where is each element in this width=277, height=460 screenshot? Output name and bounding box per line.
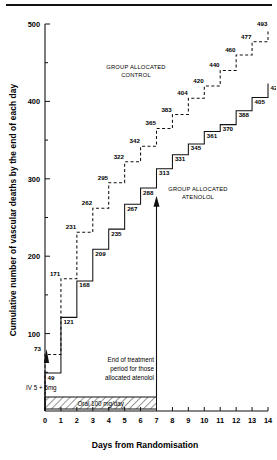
data-label-atenolol: 209 (95, 250, 105, 257)
x-tick-label: 4 (102, 416, 116, 425)
data-label-atenolol: 235 (111, 230, 121, 237)
y-tick-label: 400 (18, 97, 40, 106)
data-label-atenolol: 267 (127, 205, 137, 212)
x-tick-label: 2 (70, 416, 84, 425)
data-label-atenolol: 331 (175, 155, 185, 162)
data-label-atenolol: 405 (255, 98, 265, 105)
data-label-control: 440 (209, 61, 219, 68)
data-label-atenolol: 388 (239, 111, 249, 118)
x-tick-label: 9 (181, 416, 195, 425)
data-label-atenolol: 121 (63, 318, 73, 325)
data-label-control: 420 (193, 77, 203, 84)
group-label-control-line1: GROUP ALLOCATED (88, 64, 184, 72)
y-tick-label: 200 (18, 252, 40, 261)
iv-dose-label: IV 5 + 5mg (26, 384, 57, 391)
x-tick-label: 11 (213, 416, 227, 425)
data-label-atenolol: 168 (79, 281, 89, 288)
data-label-control: 171 (50, 270, 60, 277)
data-label-control: 295 (98, 174, 108, 181)
end-treatment-annotation-line2: period for those (96, 364, 154, 373)
data-label-control: 322 (114, 153, 124, 160)
data-label-control: 404 (177, 89, 187, 96)
x-tick-label: 10 (197, 416, 211, 425)
data-label-control: 365 (146, 119, 156, 126)
figure-container: Cumulative number of vascular deaths by … (0, 0, 276, 460)
x-tick-label: 0 (38, 416, 52, 425)
x-tick-label: 12 (229, 416, 243, 425)
data-label-control: 231 (66, 223, 76, 230)
x-tick-label: 8 (165, 416, 179, 425)
oral-dose-label: Oral 100 mg/day (45, 400, 157, 407)
group-label-atenolol-line1: GROUP ALLOCATED (150, 186, 246, 194)
data-label-atenolol: 370 (223, 125, 233, 132)
end-treatment-annotation-line1: End of treatment (96, 355, 154, 364)
y-tick-label: 300 (18, 175, 40, 184)
data-label-atenolol: 345 (191, 144, 201, 151)
data-label-atenolol: 49 (48, 374, 55, 381)
data-label-control: 477 (241, 33, 251, 40)
group-label-atenolol-line2: ATENOLOL (150, 194, 246, 202)
data-label-control: 493 (257, 20, 267, 27)
y-tick-label: 500 (18, 20, 40, 29)
data-label-control: 342 (130, 137, 140, 144)
x-tick-label: 13 (245, 416, 259, 425)
data-label-atenolol: 423 (271, 84, 277, 91)
y-tick-label: 100 (18, 330, 40, 339)
data-label-atenolol: 361 (207, 132, 217, 139)
x-tick-label: 1 (54, 416, 68, 425)
x-tick-label: 6 (134, 416, 148, 425)
end-treatment-annotation-line3: allocated atenolol (96, 373, 154, 382)
x-tick-label: 14 (261, 416, 275, 425)
data-label-control: 383 (161, 106, 171, 113)
data-label-control: 73 (34, 345, 41, 352)
x-tick-label: 7 (150, 416, 164, 425)
group-label-control-line2: CONTROL (88, 72, 184, 80)
x-tick-label: 5 (118, 416, 132, 425)
data-label-control: 262 (82, 199, 92, 206)
data-label-control: 460 (225, 46, 235, 53)
data-label-atenolol: 313 (159, 169, 169, 176)
x-tick-label: 3 (86, 416, 100, 425)
